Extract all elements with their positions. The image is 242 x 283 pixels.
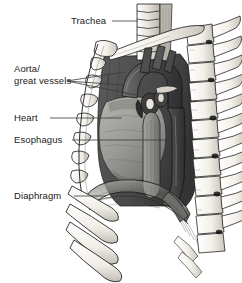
- label-aorta-line1: Aorta/: [14, 63, 40, 74]
- label-esophagus-text: Esophagus: [14, 134, 63, 145]
- anatomy-illustration: Trachea Aorta/ great vessels Heart Esoph…: [0, 0, 242, 283]
- label-diaphragm-text: Diaphragm: [14, 190, 61, 201]
- label-trachea-text: Trachea: [71, 15, 107, 26]
- anatomy-figure: Trachea Aorta/ great vessels Heart Esoph…: [0, 0, 242, 283]
- label-heart-text: Heart: [14, 112, 38, 123]
- great-vessels: [140, 46, 176, 73]
- sternum: [94, 40, 117, 56]
- label-aorta-line2: great vessels: [14, 75, 71, 86]
